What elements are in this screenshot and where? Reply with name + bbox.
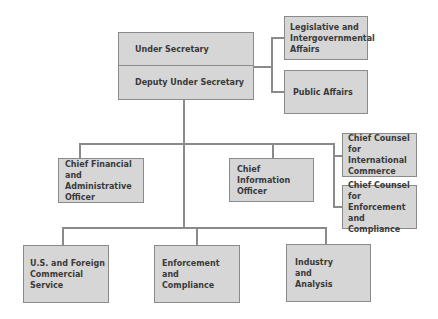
cio-box: Chief Information Officer [229, 158, 314, 202]
industry-analysis-label: Industry and Analysis [295, 257, 350, 290]
cfo-label: Chief Financial and Administrative Offic… [65, 159, 135, 203]
connector-counsel-enf [333, 206, 342, 208]
connector-public-affairs [271, 91, 284, 93]
connector-bottom-h [62, 227, 326, 229]
connector-enforcement [196, 227, 198, 245]
deputy-under-secretary-label: Deputy Under Secretary [135, 77, 244, 88]
public-affairs-box: Public Affairs [284, 70, 368, 114]
connector-cfo [79, 143, 81, 158]
connector-counsel-intl [333, 155, 342, 157]
under-secretary-box: Under Secretary [118, 32, 254, 67]
usfcs-label: U.S. and Foreign Commercial Service [30, 258, 106, 291]
legislative-affairs-box: Legislative and Intergovernmental Affair… [284, 16, 368, 60]
counsel-enforcement-box: Chief Counsel for Enforcement and Compli… [342, 185, 417, 229]
counsel-international-box: Chief Counsel for International Commerce [342, 133, 417, 177]
counsel-international-label: Chief Counsel for International Commerce [348, 133, 413, 177]
connector-middle-h [79, 143, 334, 145]
usfcs-box: U.S. and Foreign Commercial Service [23, 245, 109, 303]
connector-usfcs [62, 227, 64, 245]
cio-label: Chief Information Officer [237, 164, 299, 197]
connector-cio [272, 143, 274, 158]
under-secretary-label: Under Secretary [135, 44, 209, 55]
counsel-enforcement-label: Chief Counsel for Enforcement and Compli… [348, 180, 413, 235]
legislative-affairs-label: Legislative and Intergovernmental Affair… [290, 22, 375, 55]
connector-right-vertical [271, 37, 273, 92]
connector-legislative [271, 37, 284, 39]
connector-industry [325, 227, 327, 244]
deputy-under-secretary-box: Deputy Under Secretary [118, 65, 254, 100]
cfo-box: Chief Financial and Administrative Offic… [58, 158, 144, 203]
enforcement-compliance-box: Enforcement and Compliance [154, 245, 240, 303]
public-affairs-label: Public Affairs [293, 87, 353, 98]
connector-counsel-vertical [333, 143, 335, 207]
enforcement-compliance-label: Enforcement and Compliance [162, 258, 223, 291]
org-chart: Under Secretary Deputy Under Secretary L… [0, 0, 438, 319]
connector-main-vertical [183, 99, 185, 227]
industry-analysis-box: Industry and Analysis [286, 244, 371, 302]
connector-top-right-h [253, 66, 272, 68]
